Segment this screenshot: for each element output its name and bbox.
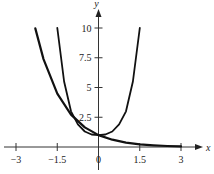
y-tick-label: 5 — [87, 82, 92, 93]
y-tick-label: 2.5 — [79, 112, 92, 123]
y-axis-arrow-icon — [96, 9, 102, 17]
series-line — [35, 28, 181, 146]
x-axis-arrow-icon — [195, 144, 203, 150]
x-tick-label: 0 — [96, 154, 101, 165]
x-tick-label: −1.5 — [48, 154, 66, 165]
curves — [35, 28, 181, 146]
y-tick-label: 7.5 — [79, 52, 92, 63]
x-tick-label: −3 — [11, 154, 22, 165]
chart: −3−1.501.532.557.510xy — [0, 0, 214, 174]
y-axis-label: y — [93, 0, 99, 9]
x-tick-label: 1.5 — [134, 154, 147, 165]
x-tick-label: 3 — [179, 154, 184, 165]
x-axis-label: x — [205, 142, 211, 153]
y-tick-label: 10 — [82, 23, 92, 34]
